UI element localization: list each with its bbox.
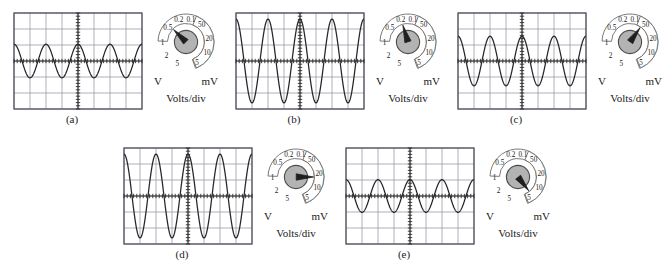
scope-panel-b: 0.10.20.51255020105VmVVolts/div(b) <box>222 0 444 135</box>
knob-title: Volts/div <box>150 92 222 104</box>
panel-caption: (c) <box>444 113 588 125</box>
knob-unit-row: VmV <box>150 76 222 87</box>
knob-scale-label-mv-2: 10 <box>425 49 433 57</box>
knob-unit-row: VmV <box>594 76 666 87</box>
scope-display <box>13 12 143 110</box>
scope-display <box>457 12 587 110</box>
knob-scale-label-mv-0: 50 <box>420 21 428 29</box>
volts-per-div-knob[interactable]: 0.10.20.51255020105 <box>150 12 222 72</box>
knob-scale-label-v-5: 5 <box>619 60 623 68</box>
knob-scale-label-mv-3: 5 <box>639 59 643 67</box>
knob-scale-label-v-2: 0.5 <box>385 24 394 32</box>
scope-screen <box>13 12 143 110</box>
knob-scale-label-v-5: 5 <box>285 195 289 203</box>
scope-panel-a: 0.10.20.51255020105VmVVolts/div(a) <box>0 0 222 135</box>
knob-scale-label-mv-1: 20 <box>427 35 435 43</box>
knob-scale-label-v-0: 0.1 <box>630 16 639 24</box>
knob-title: Volts/div <box>482 227 554 239</box>
knob-scale-label-mv-0: 50 <box>308 156 316 164</box>
knob-scale-label-mv-3: 5 <box>195 59 199 67</box>
panel-caption: (e) <box>332 248 476 260</box>
knob-title: Volts/div <box>372 92 444 104</box>
knob-scale-label-v-3: 1 <box>161 39 165 47</box>
scope-panel-c: 0.10.20.51255020105VmVVolts/div(c) <box>444 0 666 135</box>
knob-scale-label-v-2: 0.5 <box>607 24 616 32</box>
knob-unit-volts-label: V <box>154 76 162 87</box>
knob-unit-volts-label: V <box>264 211 272 222</box>
knob-scale-label-v-5: 5 <box>175 60 179 68</box>
knob-unit-row: VmV <box>482 211 554 222</box>
knob-scale-label-v-1: 0.2 <box>506 151 515 159</box>
knob-unit-millivolts-label: mV <box>202 76 219 87</box>
knob-scale-label-v-5: 5 <box>507 195 511 203</box>
scope-screen <box>235 12 365 110</box>
knob-title: Volts/div <box>594 92 666 104</box>
knob-scale-label-v-3: 1 <box>271 174 275 182</box>
knob-assembly: 0.10.20.51255020105VmVVolts/div <box>150 12 222 112</box>
knob-unit-volts-label: V <box>598 76 606 87</box>
scope-center-axes <box>346 148 474 244</box>
knob-scale-label-mv-2: 10 <box>647 49 655 57</box>
scope-center-axes <box>458 13 586 109</box>
knob-assembly: 0.10.20.51255020105VmVVolts/div <box>482 147 554 247</box>
knob-scale-label-mv-0: 50 <box>530 156 538 164</box>
knob-unit-millivolts-label: mV <box>646 76 663 87</box>
knob-assembly: 0.10.20.51255020105VmVVolts/div <box>594 12 666 112</box>
knob-scale-label-v-3: 1 <box>493 174 497 182</box>
scope-screen <box>345 147 475 245</box>
knob-scale-label-v-2: 0.5 <box>273 159 282 167</box>
knob-scale-label-v-5: 5 <box>397 60 401 68</box>
knob-unit-volts-label: V <box>486 211 494 222</box>
scope-display <box>235 12 365 110</box>
knob-scale-label-v-4: 2 <box>387 52 391 60</box>
knob-scale-label-mv-1: 20 <box>315 170 323 178</box>
knob-title: Volts/div <box>260 227 332 239</box>
knob-scale-label-mv-2: 10 <box>203 49 211 57</box>
knob-scale-label-v-1: 0.2 <box>174 16 183 24</box>
panel-caption: (b) <box>222 113 366 125</box>
knob-unit-volts-label: V <box>376 76 384 87</box>
knob-scale-label-mv-1: 20 <box>649 35 657 43</box>
knob-scale-label-v-1: 0.2 <box>284 151 293 159</box>
knob-scale-label-v-2: 0.5 <box>163 24 172 32</box>
knob-scale-label-mv-1: 20 <box>205 35 213 43</box>
panel-caption: (a) <box>0 113 144 125</box>
scope-screen <box>123 147 253 245</box>
panel-caption: (d) <box>110 248 254 260</box>
scope-panel-d: 0.10.20.51255020105VmVVolts/div(d) <box>110 135 332 270</box>
knob-scale-label-v-0: 0.1 <box>296 151 305 159</box>
knob-scale-label-v-3: 1 <box>383 39 387 47</box>
knob-scale-label-v-0: 0.1 <box>408 16 417 24</box>
scope-center-axes <box>14 13 142 109</box>
knob-scale-label-mv-3: 5 <box>527 194 531 202</box>
knob-scale-label-v-1: 0.2 <box>618 16 627 24</box>
knob-scale-label-v-4: 2 <box>275 187 279 195</box>
knob-assembly: 0.10.20.51255020105VmVVolts/div <box>372 12 444 112</box>
knob-scale-label-v-3: 1 <box>605 39 609 47</box>
knob-unit-row: VmV <box>372 76 444 87</box>
knob-scale-label-v-4: 2 <box>497 187 501 195</box>
volts-per-div-knob[interactable]: 0.10.20.51255020105 <box>372 12 444 72</box>
knob-scale-label-v-4: 2 <box>165 52 169 60</box>
scope-screen <box>457 12 587 110</box>
knob-scale-label-mv-0: 50 <box>642 21 650 29</box>
knob-scale-label-mv-3: 5 <box>305 194 309 202</box>
volts-per-div-knob[interactable]: 0.10.20.51255020105 <box>594 12 666 72</box>
knob-unit-millivolts-label: mV <box>534 211 551 222</box>
knob-scale-label-mv-3: 5 <box>417 59 421 67</box>
knob-unit-millivolts-label: mV <box>424 76 441 87</box>
knob-scale-label-mv-1: 20 <box>537 170 545 178</box>
knob-scale-label-v-4: 2 <box>609 52 613 60</box>
knob-assembly: 0.10.20.51255020105VmVVolts/div <box>260 147 332 247</box>
knob-scale-label-v-2: 0.5 <box>495 159 504 167</box>
scope-panel-e: 0.10.20.51255020105VmVVolts/div(e) <box>332 135 554 270</box>
knob-unit-row: VmV <box>260 211 332 222</box>
knob-unit-millivolts-label: mV <box>312 211 329 222</box>
volts-per-div-knob[interactable]: 0.10.20.51255020105 <box>260 147 332 207</box>
knob-scale-label-mv-0: 50 <box>198 21 206 29</box>
scope-display <box>345 147 475 245</box>
volts-per-div-knob[interactable]: 0.10.20.51255020105 <box>482 147 554 207</box>
knob-scale-label-mv-2: 10 <box>313 184 321 192</box>
knob-scale-label-v-0: 0.1 <box>518 151 527 159</box>
knob-scale-label-v-0: 0.1 <box>186 16 195 24</box>
